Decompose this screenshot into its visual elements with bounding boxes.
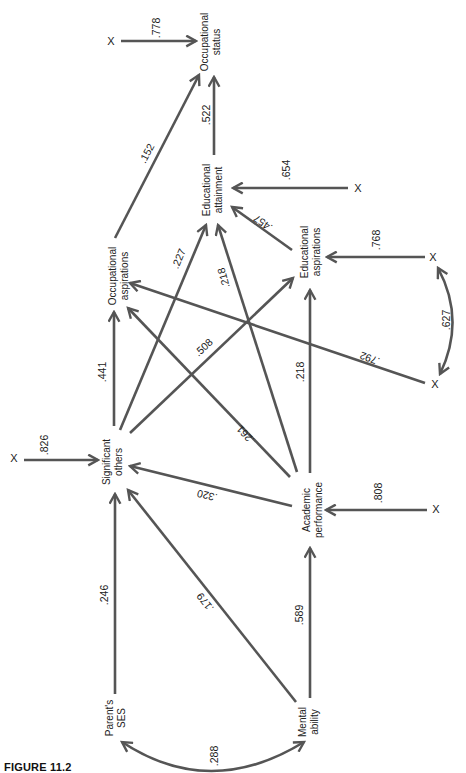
coef-778: .778 [150, 18, 162, 39]
edge-x-occupational-aspirations [130, 283, 425, 383]
node-label-line2: others [113, 448, 124, 476]
edge-significant-others-educational-attainment [120, 225, 206, 430]
figure-caption: FIGURE 11.2 [4, 761, 72, 773]
edge-significant-others-educational-aspirations [130, 278, 293, 433]
coef-457: .457 [251, 212, 275, 234]
node-label-line1: Parent's [104, 700, 115, 736]
edge-academic-performance-educational-attainment [218, 225, 297, 472]
coefficients: .778 .522 .152 .654 .457 .227 .218 .768 … [38, 18, 452, 767]
node-label-line1: Occupational [199, 13, 210, 71]
coef-179: .179 [194, 591, 216, 615]
coef-261: .261 [234, 423, 257, 446]
coef-826: .826 [38, 435, 50, 456]
coef-654: .654 [280, 160, 292, 181]
node-mental-ability: Mental ability [297, 707, 320, 737]
coef-320: .320 [196, 488, 219, 505]
coef-522: .522 [200, 105, 212, 126]
edge-occupational-aspirations-occupational-status [115, 75, 199, 238]
coef-227: .227 [169, 247, 188, 271]
node-label-line1: Educational [201, 164, 212, 216]
coef-589: .589 [293, 605, 305, 626]
residual-x-significant-others: X [10, 452, 18, 464]
node-label-line2: aspirations [119, 252, 130, 300]
node-label-line2: SES [116, 708, 127, 728]
path-diagram: Occupational status Educational attainme… [0, 0, 466, 773]
coef-768: .768 [370, 230, 382, 251]
node-label-line1: Mental [297, 707, 308, 737]
node-occupational-aspirations: Occupational aspirations [107, 247, 130, 305]
node-label-line2: status [211, 29, 222, 56]
coef-792: .792 [358, 350, 381, 368]
nodes: Occupational status Educational attainme… [101, 13, 324, 737]
coef-441: .441 [96, 362, 108, 383]
coef-288: .288 [208, 746, 220, 767]
node-label-line2: attainment [213, 166, 224, 213]
residual-x-educational-aspirations: X [429, 251, 437, 263]
node-label-line1: Occupational [107, 247, 118, 305]
edge-academic-performance-occupational-aspirations [128, 308, 290, 477]
node-label-line2: aspirations [311, 228, 322, 276]
node-educational-attainment: Educational attainment [201, 164, 224, 216]
node-label-line2: performance [313, 481, 324, 538]
coef-627: .627 [440, 310, 452, 331]
node-academic-performance: Academic performance [301, 481, 324, 538]
node-label-line1: Academic [301, 488, 312, 532]
residual-x-occupational-status: X [107, 35, 115, 47]
node-educational-aspirations: Educational aspirations [299, 226, 322, 278]
node-label-line1: Educational [299, 226, 310, 278]
node-label-line2: ability [309, 709, 320, 735]
residual-x-academic-performance: X [432, 503, 440, 515]
coef-218-aspirations: .218 [294, 362, 306, 383]
edge-mental-ability-significant-others [128, 490, 296, 702]
residual-x-occupational-aspirations: X [431, 378, 439, 390]
residual-x-educational-attainment: X [354, 182, 362, 194]
node-occupational-status: Occupational status [199, 13, 222, 71]
node-label-line1: Significant [101, 439, 112, 485]
edges [24, 41, 453, 771]
node-significant-others: Significant others [101, 439, 124, 485]
coef-808: .808 [372, 483, 384, 504]
node-parents-ses: Parent's SES [104, 700, 127, 736]
coef-246: .246 [98, 585, 110, 606]
coef-218-attainment: .218 [215, 266, 232, 289]
